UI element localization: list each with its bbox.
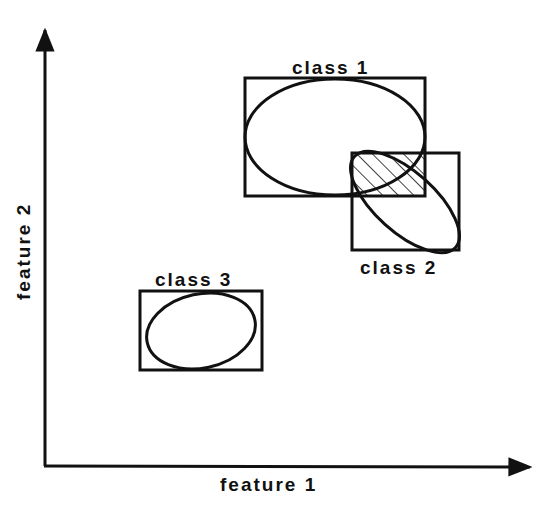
class-1-ellipse <box>245 79 425 195</box>
class-1-label: class 1 <box>292 57 369 78</box>
x-axis-label: feature 1 <box>220 474 317 495</box>
class-3-ellipse <box>140 283 263 378</box>
class-3-label: class 3 <box>155 269 232 290</box>
class-2-label: class 2 <box>360 257 437 278</box>
class-3-group: class 3 <box>140 269 263 379</box>
x-axis <box>44 466 530 467</box>
feature-space-diagram: class 1 class 2 class 3 feature 1 featur… <box>0 0 559 525</box>
y-axis-label: feature 2 <box>13 203 34 300</box>
overlap-region <box>352 153 425 196</box>
